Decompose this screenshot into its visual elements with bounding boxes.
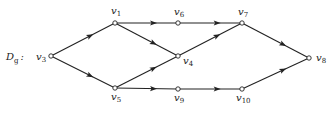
edge-v10-v8 (242, 58, 309, 89)
node-label-v3: v3 (36, 51, 46, 64)
edge-v7-v8 (242, 23, 309, 58)
node-v6 (176, 21, 180, 25)
node-v5 (113, 86, 117, 90)
arrowhead-icon (86, 32, 95, 40)
edge-v1-v4 (115, 23, 178, 56)
arrowhead-icon (279, 41, 288, 49)
arrowhead-icon (279, 66, 288, 74)
arrowhead-icon (149, 64, 158, 72)
edge-v5-v9 (115, 88, 178, 89)
node-label-v6: v6 (174, 6, 185, 19)
arrowhead-icon (213, 32, 222, 40)
node-label-v5: v5 (111, 91, 121, 104)
graph-name-label: Dg: (5, 51, 24, 65)
node-v3 (49, 54, 53, 58)
node-v8 (307, 56, 311, 60)
arrowhead-icon (86, 72, 95, 80)
node-v9 (176, 87, 180, 91)
directed-graph: Dg: v1v3v4v5v6v7v8v9v10 (0, 0, 335, 115)
edge-v4-v7 (178, 23, 242, 56)
node-label-v7: v7 (238, 6, 248, 19)
edge-v5-v4 (115, 56, 178, 88)
edge-v3-v5 (51, 56, 115, 88)
arrowhead-icon (149, 39, 158, 47)
edge-v3-v1 (51, 23, 115, 56)
node-label-v4: v4 (183, 55, 194, 68)
nodes-layer (49, 21, 311, 91)
node-v4 (176, 54, 180, 58)
node-label-v9: v9 (174, 92, 184, 105)
node-v7 (240, 21, 244, 25)
node-label-v8: v8 (316, 52, 326, 65)
node-label-v1: v1 (111, 5, 121, 18)
node-v1 (113, 21, 117, 25)
node-v10 (240, 87, 244, 91)
node-label-v10: v10 (236, 92, 251, 105)
